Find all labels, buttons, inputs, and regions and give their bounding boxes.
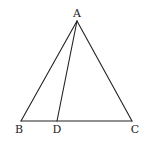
label-b: B [15,123,23,136]
segment-ad [57,21,77,121]
segment-ac [77,21,132,121]
label-a: A [72,7,82,20]
segment-ab [21,21,77,121]
geometry-diagram: A B D C [0,0,151,147]
label-c: C [131,123,139,136]
label-d: D [53,123,62,136]
